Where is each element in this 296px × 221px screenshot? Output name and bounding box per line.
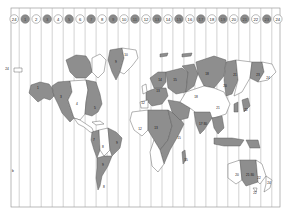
zone-circle-13: 13 [153, 15, 162, 24]
zone-circle-4: 4 [54, 15, 63, 24]
zone-circle-16: 16 [186, 15, 195, 24]
zone-circle-10: 10 [120, 15, 129, 24]
svg-text:10: 10 [122, 17, 127, 22]
svg-text:15: 15 [177, 17, 182, 22]
zone-label-canada-west: 3 [60, 95, 62, 99]
zone-label-india: 17:30 [199, 122, 207, 126]
zone-label-africa-east: 15 [177, 136, 181, 140]
svg-text:21: 21 [242, 17, 247, 22]
zone-circle-14: 14 [164, 15, 173, 24]
zone-label-uk: 12 [141, 101, 145, 105]
svg-text:17: 17 [199, 17, 204, 22]
zone-label-australia-west: 20 [235, 173, 239, 177]
svg-text:14: 14 [166, 17, 171, 22]
zone-label-canada-east: 5 [94, 106, 96, 110]
zone-label-africa-west: 12 [138, 127, 142, 131]
land-indonesia [214, 138, 244, 146]
zone-label-europe-central: 13 [156, 89, 160, 93]
zone-label-south-america-west: 7 [93, 138, 95, 142]
zone-circle-18: 18 [208, 15, 217, 24]
zone-circle-11: 11 [131, 15, 140, 24]
svg-text:16: 16 [188, 17, 193, 22]
svg-text:19: 19 [221, 17, 226, 22]
zone-label-australia-east: 22 [257, 176, 261, 180]
zone-circle-22: 22 [252, 15, 261, 24]
zone-circle-12: 12 [142, 15, 151, 24]
zone-circle-9: 9 [109, 15, 118, 24]
zone-label-asia-central: 18 [194, 95, 198, 99]
zone-circle-7: 7 [87, 15, 96, 24]
svg-text:24: 24 [275, 17, 280, 22]
svg-text:22: 22 [253, 17, 258, 22]
svg-text:23: 23 [264, 17, 269, 22]
zone-circle-24: 24 [274, 15, 283, 24]
zone-label-russia-far-east: 21 [233, 73, 237, 77]
zone-circle-5: 5 [65, 15, 74, 24]
svg-text:18: 18 [210, 17, 215, 22]
zone-circle-20: 20 [230, 15, 239, 24]
zone-circle-15: 15 [175, 15, 184, 24]
zone-circle-17: 17 [197, 15, 206, 24]
zone-label-tasmania: 22 [253, 191, 257, 195]
zone-label-kamchatka: 23 [256, 73, 260, 77]
zone-label-greenland: 9 [115, 60, 117, 64]
zone-circle-23: 23 [263, 15, 272, 24]
zone-circle-3: 3 [43, 15, 52, 24]
land-korea [234, 102, 238, 112]
svg-text:12: 12 [144, 17, 149, 22]
bottom-left-glyph: b [12, 169, 14, 173]
zone-circle-24: 24 [10, 15, 19, 24]
zone-circle-8: 8 [98, 15, 107, 24]
zone-label-russia-central: 18 [205, 72, 209, 76]
zone-circle-19: 19 [219, 15, 228, 24]
zone-label-greenland-east: 10 [124, 53, 128, 57]
zone-circle-21: 21 [241, 15, 250, 24]
zone-label-chukotka: 24 [266, 76, 270, 80]
zone-label-russia-west: 15 [173, 78, 177, 82]
zone-label-south-america-central: 8 [102, 145, 104, 149]
zone-label-chile-south: 8 [103, 185, 105, 189]
zone-circle-6: 6 [76, 15, 85, 24]
left-edge-label: 24 [5, 67, 9, 71]
land-uk [142, 84, 147, 94]
zone-label-scandinavia: 14 [158, 78, 162, 82]
zone-label-africa-central: 13 [154, 126, 158, 130]
zone-label-japan: 22 [244, 108, 248, 112]
zone-label-australia-central: 21:30 [246, 173, 254, 177]
zone-label-madagascar: 15 [184, 158, 188, 162]
zone-label-siberia-east: 20 [223, 84, 227, 88]
svg-text:24: 24 [12, 17, 17, 22]
svg-text:13: 13 [155, 17, 160, 22]
zone-label-brazil: 9 [116, 141, 118, 145]
zone-circle-2: 2 [32, 15, 41, 24]
zone-label-usa-central: 4 [76, 102, 78, 106]
zone-label-new-zealand: 24 [267, 181, 271, 185]
zone-label-alaska: 1 [37, 86, 39, 90]
world-time-zone-map: 2412345678910111213141516171819202122232… [0, 0, 296, 221]
svg-text:20: 20 [231, 17, 236, 22]
zone-label-argentina: 9 [102, 163, 104, 167]
zone-circle-1: 1 [21, 15, 30, 24]
land-hawaii [14, 68, 22, 72]
zone-label-china: 21 [216, 106, 220, 110]
svg-text:11: 11 [133, 17, 138, 22]
